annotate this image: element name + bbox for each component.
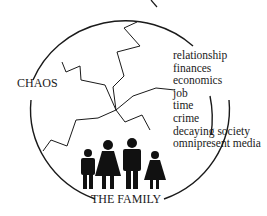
crack-line: [151, 0, 157, 7]
crack-line: [113, 22, 150, 130]
family-figures: [81, 138, 166, 189]
factor-item: economics: [173, 74, 261, 87]
factor-item: job: [173, 87, 261, 100]
crack-line: [116, 88, 175, 110]
factor-item: omnipresent media: [173, 137, 261, 150]
family-label: THE FAMILY: [91, 193, 161, 206]
factor-item: crime: [173, 112, 261, 125]
factor-item: time: [173, 99, 261, 112]
circle-arc: [33, 21, 193, 80]
factor-item: relationship: [173, 49, 261, 62]
factor-item: decaying society: [173, 125, 261, 138]
chaos-label: CHAOS: [17, 77, 58, 90]
factor-item: finances: [173, 62, 261, 75]
chaos-family-diagram: CHAOS THE FAMILY relationship finances e…: [0, 0, 267, 216]
factor-list: relationship finances economics job time…: [173, 49, 261, 150]
